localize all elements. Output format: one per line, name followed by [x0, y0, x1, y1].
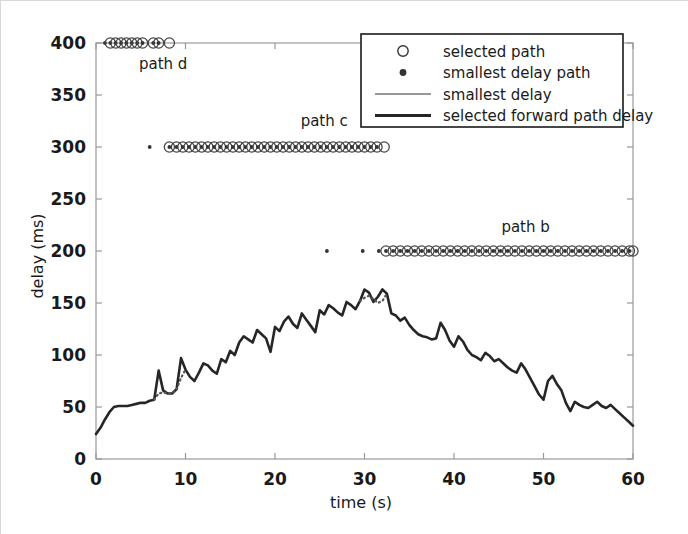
smallest-delay-path-marker [325, 249, 329, 253]
smallest-delay-path-marker [361, 249, 365, 253]
x-tick-label-50: 50 [532, 469, 556, 489]
y-tick-label-350: 350 [51, 85, 87, 105]
smallest-delay-path-marker [491, 249, 495, 253]
annotation-path-d: path d [139, 55, 187, 73]
smallest-delay-path-marker [398, 249, 402, 253]
smallest-delay-path-marker [477, 249, 481, 253]
smallest-delay-path-marker [427, 249, 431, 253]
smallest-delay-path-marker [613, 249, 617, 253]
smallest-delay-path-marker [375, 145, 379, 149]
smallest-delay-path-marker [420, 249, 424, 253]
smallest-delay-path-marker [499, 249, 503, 253]
smallest-delay-path-marker [513, 249, 517, 253]
y-tick-label-50: 50 [62, 397, 86, 417]
x-tick-label-30: 30 [353, 469, 377, 489]
legend-label-smallest-delay-path: smallest delay path [443, 64, 591, 82]
smallest-delay-path-marker [556, 249, 560, 253]
chart-legend: selected pathsmallest delay pathsmallest… [361, 34, 653, 127]
smallest-delay-path-marker [542, 249, 546, 253]
smallest-delay-path-marker [413, 249, 417, 253]
smallest-delay-path-marker [167, 145, 171, 149]
smallest-delay-path-marker [549, 249, 553, 253]
annotation-path-b: path b [501, 218, 549, 236]
y-tick-label-250: 250 [51, 189, 87, 209]
smallest-delay-path-marker [520, 249, 524, 253]
y-tick-label-100: 100 [51, 345, 87, 365]
smallest-delay-path-marker [449, 249, 453, 253]
smallest-delay-path-marker [563, 249, 567, 253]
smallest-delay-path-marker [484, 249, 488, 253]
smallest-delay-path-marker [620, 249, 624, 253]
smallest-delay-path-marker [434, 249, 438, 253]
smallest-delay-path-marker [527, 249, 531, 253]
smallest-delay-path-marker [534, 249, 538, 253]
smallest-delay-path-marker [570, 249, 574, 253]
smallest-delay-path-marker [599, 249, 603, 253]
smallest-delay-path-marker [463, 249, 467, 253]
annotation-path-c: path c [301, 112, 348, 130]
legend-icon-smallest-delay-path [400, 69, 407, 76]
y-tick-label-150: 150 [51, 293, 87, 313]
smallest-delay-path-marker [377, 249, 381, 253]
delay-vs-time-chart: 050100150200250300350400 0102030405060 d… [1, 1, 688, 534]
smallest-delay-path-marker [157, 41, 161, 45]
smallest-delay-path-marker [470, 249, 474, 253]
smallest-delay-path-marker [577, 249, 581, 253]
y-tick-label-0: 0 [74, 449, 86, 469]
legend-label-smallest-delay: smallest delay [443, 86, 552, 104]
smallest-delay-path-marker [441, 249, 445, 253]
legend-label-selected-forward-path-delay: selected forward path delay [443, 107, 653, 125]
y-tick-label-300: 300 [51, 137, 87, 157]
x-tick-label-40: 40 [442, 469, 466, 489]
y-tick-label-400: 400 [51, 33, 87, 53]
x-axis-label: time (s) [330, 493, 392, 512]
figure-frame: 050100150200250300350400 0102030405060 d… [0, 0, 688, 534]
y-axis-label: delay (ms) [28, 213, 47, 298]
y-tick-label-200: 200 [51, 241, 87, 261]
smallest-delay-path-marker [406, 249, 410, 253]
smallest-delay-path-marker [391, 249, 395, 253]
smallest-delay-path-marker [384, 249, 388, 253]
smallest-delay-path-marker [592, 249, 596, 253]
smallest-delay-path-marker [606, 249, 610, 253]
smallest-delay-path-marker [585, 249, 589, 253]
smallest-delay-path-marker [506, 249, 510, 253]
x-tick-label-60: 60 [621, 469, 645, 489]
smallest-delay-path-marker [148, 145, 152, 149]
x-tick-label-10: 10 [174, 469, 198, 489]
x-tick-label-0: 0 [90, 469, 102, 489]
smallest-delay-path-marker [456, 249, 460, 253]
x-tick-label-20: 20 [263, 469, 287, 489]
legend-label-selected-path: selected path [443, 43, 545, 61]
smallest-delay-path-marker [141, 41, 145, 45]
